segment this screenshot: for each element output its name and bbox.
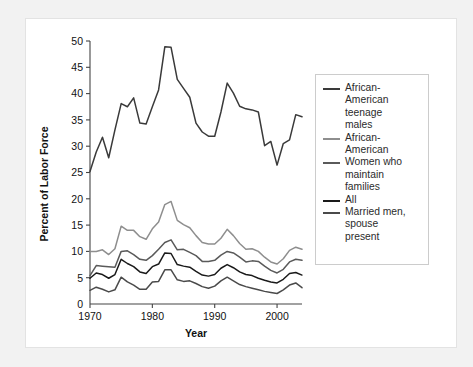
legend-item[interactable]: African- American teenage males: [323, 82, 422, 132]
legend-item[interactable]: All: [323, 194, 422, 206]
chart-axes: 051015202530354045501970198019902000: [71, 35, 302, 322]
x-axis-tick-label: 1980: [141, 310, 165, 322]
series-line-0: [90, 47, 302, 172]
y-axis-tick-label: 30: [71, 140, 83, 152]
legend-item[interactable]: Married men, spouse present: [323, 206, 422, 243]
legend-item[interactable]: Women who maintain families: [323, 156, 422, 193]
figure-card: 051015202530354045501970198019902000 Per…: [25, 18, 457, 348]
legend-swatch-african-american: [323, 138, 340, 140]
y-axis-tick-label: 20: [71, 193, 83, 205]
legend-swatch-all: [323, 200, 340, 202]
legend-item-label: African- American teenage males: [345, 82, 389, 132]
y-axis-tick-label: 5: [77, 272, 83, 284]
series-line-2: [90, 240, 302, 276]
legend-item-label: Married men, spouse present: [345, 206, 406, 243]
y-axis-tick-label: 50: [71, 35, 83, 47]
legend-item-label: All: [345, 194, 356, 206]
y-axis-tick-label: 45: [71, 61, 83, 73]
y-axis-tick-label: 25: [71, 166, 83, 178]
x-axis-title: Year: [185, 327, 207, 339]
y-axis-tick-label: 40: [71, 87, 83, 99]
y-axis-title: Percent of Labor Force: [38, 126, 50, 241]
x-axis-tick-label: 2000: [265, 310, 289, 322]
chart-series: [90, 47, 302, 294]
legend-swatch-married-men-spouse-present: [323, 212, 340, 214]
x-axis-tick-label: 1990: [203, 310, 227, 322]
legend-item[interactable]: African- American: [323, 132, 422, 157]
legend-swatch-african-american-teenage-males: [323, 88, 340, 90]
legend-swatch-women-who-maintain-families: [323, 162, 340, 164]
series-line-1: [90, 201, 302, 264]
y-axis-tick-label: 10: [71, 245, 83, 257]
y-axis-tick-label: 0: [77, 298, 83, 310]
y-axis-tick-label: 15: [71, 219, 83, 231]
x-axis-tick-label: 1970: [78, 310, 102, 322]
legend-item-label: African- American: [345, 132, 389, 157]
legend-item-label: Women who maintain families: [345, 156, 402, 193]
y-axis-tick-label: 35: [71, 114, 83, 126]
chart-legend: African- American teenage malesAfrican- …: [315, 74, 429, 265]
